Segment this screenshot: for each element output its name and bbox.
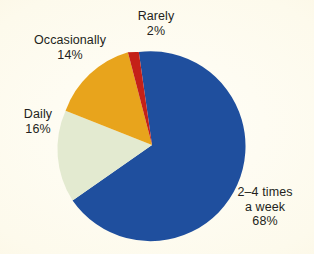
pie-label-daily: Daily 16% [6,107,70,136]
pie-chart-figure: Rarely 2% Occasionally 14% Daily 16% 2–4… [0,0,314,254]
pie-label-occasionally: Occasionally 14% [13,33,127,62]
pie-label-2-4-times-a-week-name-line1: 2–4 times [222,185,308,200]
pie-label-2-4-times-a-week-value: 68% [222,214,308,229]
pie-label-daily-name: Daily [6,107,70,122]
pie-label-occasionally-name: Occasionally [13,33,127,48]
pie-label-2-4-times-a-week: 2–4 times a week 68% [222,185,308,229]
pie-label-rarely-name: Rarely [110,9,202,24]
pie-label-occasionally-value: 14% [13,48,127,63]
pie-label-2-4-times-a-week-name-line2: a week [222,200,308,215]
pie-label-daily-value: 16% [6,122,70,137]
